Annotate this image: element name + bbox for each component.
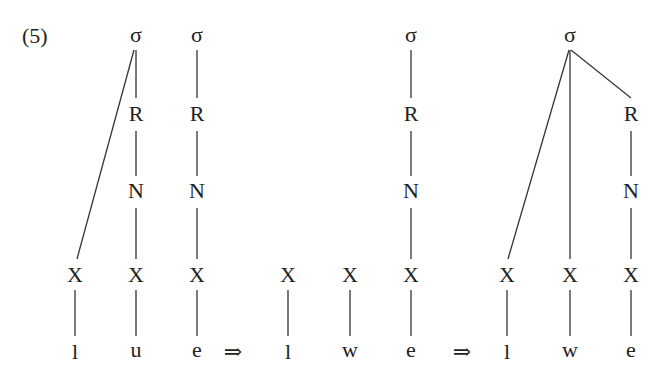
syllable-node: σ: [191, 24, 203, 46]
skeletal-slot: X: [403, 264, 419, 286]
nucleus-node: N: [623, 180, 639, 202]
rime-node: R: [129, 103, 144, 125]
skeletal-slot: X: [189, 264, 205, 286]
syllable-node: σ: [564, 24, 576, 46]
tree-edges: [0, 0, 670, 379]
association-line: [77, 50, 134, 259]
derivation-arrow: ⇒: [224, 341, 242, 363]
skeletal-slot: X: [562, 264, 578, 286]
association-line: [508, 50, 569, 259]
segment: e: [626, 339, 636, 361]
nucleus-node: N: [128, 180, 144, 202]
segment: l: [504, 341, 510, 363]
segment: u: [131, 339, 142, 361]
skeletal-slot: X: [623, 264, 639, 286]
syllable-structure-diagram: (5) σ σ R R N N X X X l u e ⇒ σ R N X X …: [0, 0, 670, 379]
nucleus-node: N: [403, 180, 419, 202]
syllable-node: σ: [405, 24, 417, 46]
rime-node: R: [190, 103, 205, 125]
skeletal-slot: X: [67, 264, 83, 286]
rime-node: R: [624, 103, 639, 125]
example-number: (5): [22, 25, 48, 47]
association-line: [571, 50, 631, 98]
skeletal-slot: X: [499, 264, 515, 286]
skeletal-slot: X: [342, 264, 358, 286]
segment: l: [285, 341, 291, 363]
segment: e: [192, 339, 202, 361]
derivation-arrow: ⇒: [453, 341, 471, 363]
syllable-node: σ: [130, 24, 142, 46]
segment: e: [406, 339, 416, 361]
segment: w: [562, 339, 578, 361]
segment: l: [72, 341, 78, 363]
skeletal-slot: X: [128, 264, 144, 286]
rime-node: R: [404, 103, 419, 125]
nucleus-node: N: [189, 180, 205, 202]
segment: w: [342, 339, 358, 361]
skeletal-slot: X: [280, 264, 296, 286]
